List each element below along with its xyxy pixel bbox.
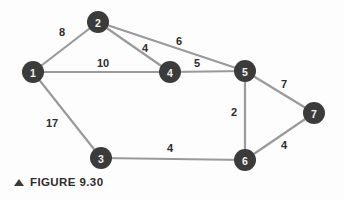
edge-weight-6-7: 4 — [281, 139, 288, 151]
edge-weight-4-5: 5 — [194, 57, 200, 69]
graph-edge-1-3 — [33, 72, 101, 158]
edge-weight-1-3: 17 — [46, 117, 58, 129]
triangle-up-icon — [14, 179, 24, 186]
figure-caption-text: FIGURE 9.30 — [30, 176, 103, 188]
figure-container: 1234567 810174657244 FIGURE 9.30 — [0, 0, 344, 200]
graph-node-label-3: 3 — [98, 153, 104, 165]
graph-edges-layer — [33, 22, 314, 160]
edge-weight-3-6: 4 — [167, 142, 174, 154]
graph-edge-6-7 — [245, 113, 314, 160]
graph-node-label-1: 1 — [30, 67, 36, 79]
graph-node-label-6: 6 — [242, 155, 248, 167]
graph-edge-4-5 — [170, 71, 245, 72]
edge-weight-2-5: 6 — [176, 35, 182, 47]
weighted-graph-diagram: 1234567 810174657244 — [0, 0, 344, 200]
edge-weight-5-7: 7 — [281, 78, 287, 90]
graph-edge-3-6 — [101, 158, 245, 160]
graph-edge-1-2 — [33, 22, 98, 72]
graph-node-label-2: 2 — [95, 17, 101, 29]
edge-weight-1-4: 10 — [97, 57, 109, 69]
edge-weight-1-2: 8 — [59, 26, 65, 38]
graph-node-label-4: 4 — [167, 67, 173, 79]
edge-weight-2-4: 4 — [142, 42, 149, 54]
graph-edge-5-7 — [245, 71, 314, 113]
figure-caption: FIGURE 9.30 — [14, 176, 103, 188]
edge-weight-5-6: 2 — [231, 106, 237, 118]
graph-node-label-7: 7 — [311, 108, 317, 120]
graph-node-label-5: 5 — [242, 66, 248, 78]
